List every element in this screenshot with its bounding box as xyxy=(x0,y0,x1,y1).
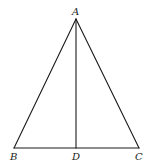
segment-ab xyxy=(14,19,76,148)
vertex-label-b: B xyxy=(9,151,17,162)
point-label-d: D xyxy=(71,151,80,162)
segment-ac xyxy=(76,19,139,148)
triangle-diagram: A B D C xyxy=(0,0,152,166)
vertex-label-c: C xyxy=(135,151,143,162)
vertex-label-a: A xyxy=(71,6,79,17)
